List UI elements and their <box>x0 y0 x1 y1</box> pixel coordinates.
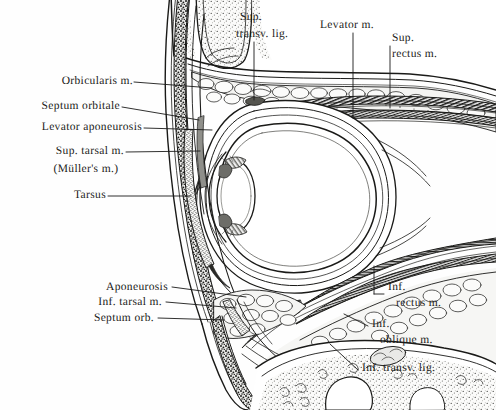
label-sup-rectus-line2: rectus m. <box>392 48 472 62</box>
label-levator-muscle: Levator m. <box>320 19 400 33</box>
label-sup-transv-lig-line1: Sup. <box>240 11 300 25</box>
label-sup-tarsal-muscle: Sup. tarsal m. <box>28 145 124 159</box>
label-inf-transv-lig: Inf. transv. lig. <box>362 362 472 376</box>
label-septum-orbitale: Septum orbitale <box>8 100 120 114</box>
label-inf-rectus-line2: rectus m. <box>396 297 476 311</box>
anatomical-figure: Orbicularis m. Septum orbitale Levator a… <box>0 0 496 410</box>
label-sup-rectus-line1: Sup. <box>392 32 442 46</box>
label-inf-oblique-line2: oblique m. <box>380 334 470 348</box>
label-septum-orb: Septum orb. <box>60 312 154 326</box>
label-inf-tarsal-muscle: Inf. tarsal m. <box>64 296 162 310</box>
label-orbicularis: Orbicularis m. <box>28 75 133 89</box>
label-inf-oblique-line1: Inf. <box>372 318 412 332</box>
label-inf-rectus-line1: Inf. <box>388 281 428 295</box>
label-aponeurosis: Aponeurosis <box>74 281 168 295</box>
label-mullers-muscle: (Müller's m.) <box>38 163 134 177</box>
label-levator-aponeurosis: Levator aponeurosis <box>4 121 142 135</box>
label-tarsus: Tarsus <box>56 189 106 203</box>
label-sup-transv-lig-line2: transv. lig. <box>236 28 316 42</box>
